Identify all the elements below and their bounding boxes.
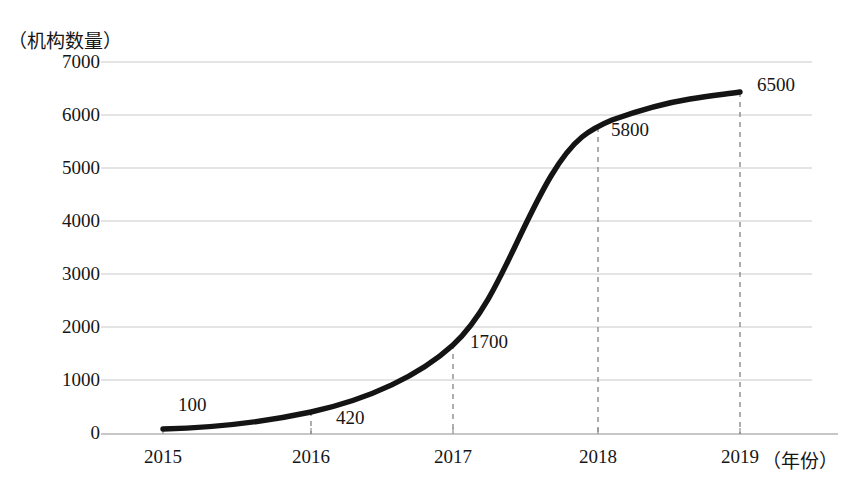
point-label-2017: 1700 [470, 331, 508, 353]
x-tick-label-2016: 2016 [292, 446, 330, 468]
x-tick-label-2015: 2015 [144, 446, 182, 468]
point-label-2016: 420 [336, 407, 365, 429]
dashed-guide-lines [311, 92, 740, 434]
x-tick-label-2017: 2017 [434, 446, 472, 468]
data-series-line [163, 92, 740, 429]
point-label-2018: 5800 [611, 119, 649, 141]
x-tick-label-2018: 2018 [579, 446, 617, 468]
x-axis-title: （年份） [762, 446, 838, 473]
point-label-2015: 100 [178, 394, 207, 416]
point-label-2019: 6500 [757, 74, 795, 96]
gridlines [101, 62, 812, 380]
chart-container: （机构数量） 7000 6000 5000 4000 3000 2000 100… [0, 0, 847, 499]
x-tick-label-2019: 2019 [721, 446, 759, 468]
plot-area [0, 0, 847, 499]
